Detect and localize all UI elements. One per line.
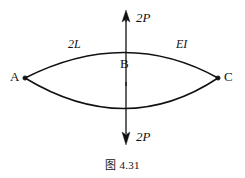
node-label-a: A (10, 70, 19, 83)
figure-caption: 图 4.31 (0, 156, 245, 172)
node-marker-a (23, 76, 27, 80)
load-label-bottom: 2P (136, 130, 150, 143)
node-label-b: B (120, 57, 129, 70)
figure-container: 2P 2P 2L EI A B C 图 4.31 (0, 0, 245, 178)
member-label-span: 2L (68, 38, 81, 50)
arch-lower-member (25, 78, 218, 109)
node-marker-c (216, 76, 220, 80)
member-label-stiffness: EI (176, 38, 187, 50)
load-label-top: 2P (136, 11, 150, 24)
node-label-c: C (224, 70, 233, 83)
diagram-canvas (0, 0, 245, 178)
